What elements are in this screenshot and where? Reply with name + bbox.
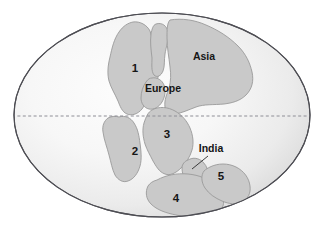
map-label-2: 2 — [132, 145, 138, 157]
map-label-asia: Asia — [193, 50, 215, 62]
map-label-3: 3 — [164, 128, 170, 140]
map-label-europe: Europe — [145, 82, 181, 94]
map-canvas: 1 2 3 4 5 Asia Europe India — [0, 0, 325, 232]
map-label-1: 1 — [132, 62, 139, 74]
map-label-india: India — [199, 142, 224, 154]
map-label-5: 5 — [218, 170, 225, 182]
paleogeographic-map-figure: 1 2 3 4 5 Asia Europe India — [0, 0, 325, 232]
map-label-4: 4 — [173, 192, 180, 204]
